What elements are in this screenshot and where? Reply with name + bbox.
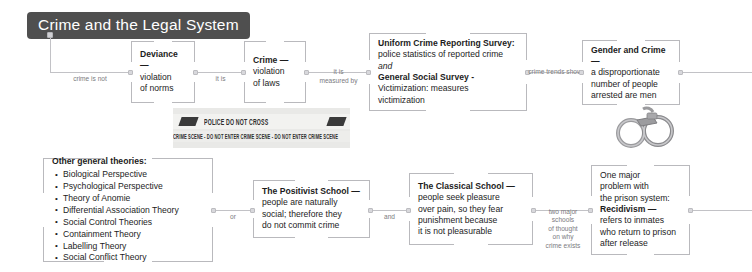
- link-gender-offscreen: [683, 72, 752, 73]
- node-classical-line-1: people seek pleasure: [418, 192, 500, 202]
- list-item: Psychological Perspective: [63, 181, 204, 193]
- connector-label-and: and: [373, 213, 406, 222]
- node-other-general-theories[interactable]: Other general theories: Biological Persp…: [43, 158, 213, 262]
- node-surveys-line-1: police statistics of reported crime: [378, 49, 503, 59]
- node-crime-line-2: of laws: [253, 78, 280, 88]
- handcuffs-icon: [605, 100, 685, 150]
- connector-label-it-is-measured-by: it ismeasured by: [311, 68, 366, 85]
- node-positivist-line-3: do not commit crime: [262, 220, 339, 230]
- node-surveys-heading-2: General Social Survey -: [378, 72, 474, 82]
- list-item: Social Control Theories: [63, 217, 204, 229]
- node-positivist-school[interactable]: The Positivist School — people are natur…: [253, 180, 370, 238]
- node-gender-line-1: a disproportionate: [591, 67, 660, 77]
- node-crime-heading: Crime —: [253, 55, 288, 65]
- node-theories-content: Other general theories: Biological Persp…: [43, 156, 213, 264]
- connector-label-or: or: [216, 213, 250, 222]
- police-tape-lower-text: CRIME SCENE - DO NOT ENTER CRIME SCENE -…: [173, 132, 338, 141]
- node-recidivism-line-1: refers to inmates: [600, 216, 664, 226]
- police-tape-upper-band: POLICE DO NOT CROSS: [173, 114, 350, 129]
- list-item: Theory of Anomie: [63, 193, 204, 205]
- node-classical-line-3: punishment because: [418, 215, 497, 225]
- police-tape-upper-text: POLICE DO NOT CROSS: [204, 116, 268, 127]
- node-positivist-content: The Positivist School — people are natur…: [253, 186, 370, 231]
- node-gender-heading: Gender and Crime —: [591, 44, 666, 65]
- node-deviance-heading: Deviance —: [140, 49, 178, 70]
- link-theories-positivist: [216, 210, 252, 211]
- link-recidivism-offscreen: [693, 210, 752, 211]
- list-item: Differential Association Theory: [63, 205, 204, 217]
- node-positivist-line-1: people are naturally: [262, 198, 338, 208]
- node-surveys-line-2: Victimization: measures: [378, 83, 469, 93]
- node-deviance-line-1: violation: [140, 72, 172, 82]
- node-deviance-content: Deviance — violation of norms: [131, 49, 195, 94]
- node-recidivism-content: One major problem with the prison system…: [591, 170, 690, 249]
- node-deviance-line-2: of norms: [140, 83, 173, 93]
- node-surveys-line-3: victimization: [378, 95, 425, 105]
- node-gender-line-3: arrested are men: [591, 90, 656, 100]
- node-classical-heading: The Classical School —: [418, 181, 515, 191]
- title-stem-vertical: [50, 38, 51, 72]
- mind-map-canvas: Crime and the Legal System crime is not …: [0, 0, 752, 272]
- connector-label-it-is: it is: [200, 75, 241, 84]
- tape-blob-right: [326, 117, 346, 126]
- node-crime-line-1: violation: [253, 66, 285, 76]
- list-item: Biological Perspective: [63, 169, 204, 181]
- connector-label-crime-is-not: crime is not: [52, 75, 128, 84]
- handcuffs-photo: [605, 100, 685, 150]
- node-deviance[interactable]: Deviance — violation of norms: [131, 41, 195, 103]
- tape-blob-left: [178, 117, 198, 126]
- link-positivist-classical: [373, 210, 408, 211]
- node-crime-content: Crime — violation of laws: [244, 55, 306, 89]
- list-item: Social Conflict Theory: [63, 252, 204, 264]
- node-surveys-italic-and: and: [378, 61, 392, 71]
- node-classical-school[interactable]: The Classical School — people seek pleas…: [409, 173, 533, 245]
- node-gender-and-crime[interactable]: Gender and Crime — a disproportionate nu…: [582, 40, 680, 105]
- list-item: Labelling Theory: [63, 240, 204, 252]
- theory-list: Biological Perspective Psychological Per…: [52, 169, 204, 264]
- link-deviance-crime: [198, 72, 243, 73]
- node-recidivism-pre-line-1: One major: [600, 170, 640, 180]
- node-recidivism-line-2: who return to prison: [600, 227, 676, 237]
- list-item: Containment Theory: [63, 229, 204, 241]
- node-recidivism[interactable]: One major problem with the prison system…: [591, 165, 690, 255]
- node-recidivism-line-3: after release: [600, 238, 648, 248]
- title-stem-horizontal: [50, 72, 130, 73]
- node-crime[interactable]: Crime — violation of laws: [244, 41, 306, 103]
- node-gender-content: Gender and Crime — a disproportionate nu…: [582, 44, 680, 101]
- node-surveys-content: Uniform Crime Reporting Survey: police s…: [369, 38, 527, 106]
- node-uniform-crime-reporting-survey[interactable]: Uniform Crime Reporting Survey: police s…: [369, 33, 527, 111]
- node-classical-line-2: over pain, so they fear: [418, 203, 503, 213]
- connector-label-two-major-schools: two majorschoolsof thoughton whycrime ex…: [535, 208, 591, 250]
- node-recidivism-pre-line-3: the prison system:: [600, 193, 670, 203]
- node-deviance-left-dot: [128, 70, 133, 75]
- node-positivist-line-2: social; therefore they: [262, 209, 342, 219]
- node-recidivism-heading: Recidivism —: [600, 204, 656, 214]
- node-positivist-heading: The Positivist School —: [262, 186, 360, 196]
- node-classical-line-4: it is not pleasurable: [418, 226, 492, 236]
- node-surveys-heading-1: Uniform Crime Reporting Survey:: [378, 38, 515, 48]
- page-title[interactable]: Crime and the Legal System: [27, 12, 250, 39]
- node-classical-content: The Classical School — people seek pleas…: [409, 181, 533, 238]
- police-tape-photo: POLICE DO NOT CROSS CRIME SCENE - DO NOT…: [173, 108, 350, 148]
- node-theories-heading: Other general theories:: [52, 156, 147, 166]
- node-gender-line-2: number of people: [591, 78, 658, 88]
- police-tape-lower-band: CRIME SCENE - DO NOT ENTER CRIME SCENE -…: [173, 131, 350, 142]
- node-recidivism-pre-line-2: problem with: [600, 182, 649, 192]
